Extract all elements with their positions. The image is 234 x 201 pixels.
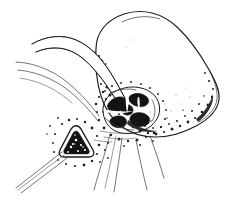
figure-canvas: Monochrome stippled line drawing of a la… <box>0 0 234 201</box>
line-drawing: Monochrome stippled line drawing of a la… <box>0 0 234 201</box>
